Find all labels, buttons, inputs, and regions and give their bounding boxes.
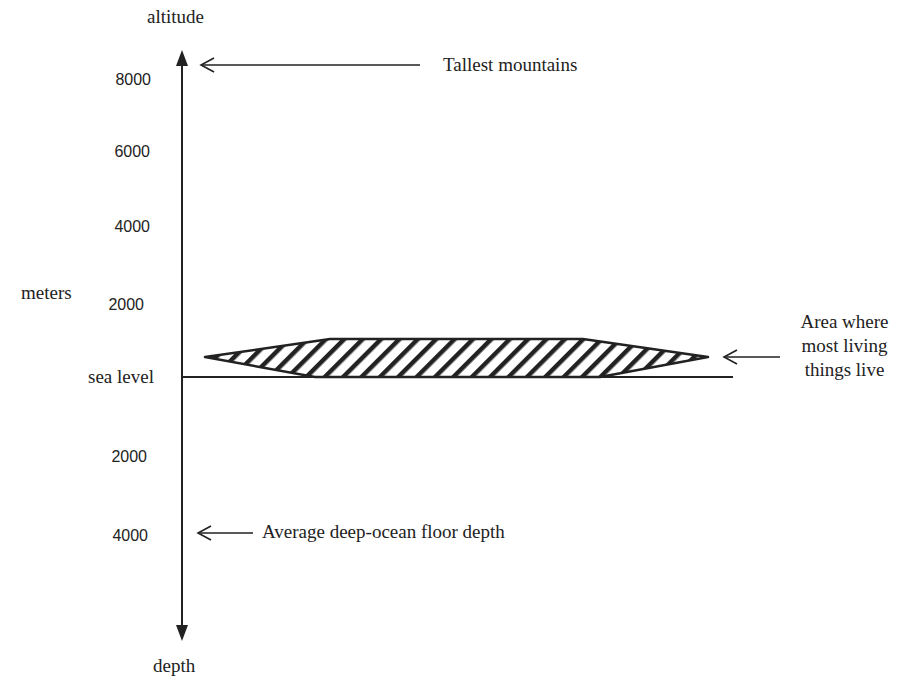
altitude-tick: 4000 <box>90 218 150 236</box>
axis-bottom-label: depth <box>153 655 195 677</box>
axis-top-label: altitude <box>147 6 204 28</box>
biosphere-band-shape <box>205 339 708 377</box>
living-area-line-1: Area where <box>782 310 907 334</box>
unit-label: meters <box>21 282 72 304</box>
sea-level-label: sea level <box>88 366 154 388</box>
altitude-tick: 6000 <box>90 143 150 161</box>
diagram-graphics <box>0 0 917 698</box>
living-area-label: Area where most living things live <box>782 310 907 382</box>
arrowhead-down-icon <box>176 625 188 641</box>
depth-tick: 2000 <box>87 448 147 466</box>
ocean-floor-label: Average deep-ocean floor depth <box>262 521 505 543</box>
open-arrow-left-icon <box>201 58 420 72</box>
open-arrow-left-icon <box>724 350 780 364</box>
altitude-tick: 2000 <box>84 296 144 314</box>
open-arrow-left-icon <box>198 526 253 540</box>
living-area-line-2: most living <box>782 334 907 358</box>
altitude-depth-diagram: altitude depth meters sea level 8000 600… <box>0 0 917 698</box>
arrowhead-up-icon <box>176 50 188 66</box>
living-area-line-3: things live <box>782 358 907 382</box>
depth-tick: 4000 <box>88 527 148 545</box>
altitude-tick: 8000 <box>91 71 151 89</box>
tallest-mountains-label: Tallest mountains <box>443 54 577 76</box>
